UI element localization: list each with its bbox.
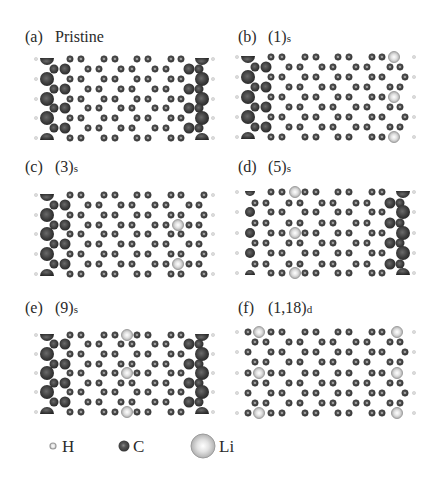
carbon-atom-highlight: [103, 98, 105, 100]
carbon-atom-highlight: [80, 334, 82, 336]
carbon-atom-highlight: [114, 334, 116, 336]
edge-atom-icon: [40, 385, 54, 399]
carbon-atom-highlight: [120, 343, 122, 345]
carbon-atom-highlight: [348, 76, 350, 78]
edge-atom-icon: [60, 378, 71, 389]
carbon-atom-highlight: [389, 86, 391, 88]
carbon-atom-highlight: [87, 263, 89, 265]
carbon-atom-highlight: [366, 66, 368, 68]
carbon-atom-highlight: [304, 211, 306, 213]
edge-atom-icon: [60, 64, 71, 75]
carbon-atom-highlight: [80, 411, 82, 413]
carbon-atom-highlight: [321, 86, 323, 88]
carbon-atom-highlight: [355, 382, 357, 384]
carbon-atom-highlight: [80, 214, 82, 216]
carbon-atom-highlight: [304, 76, 306, 78]
carbon-atom-highlight: [170, 233, 172, 235]
lithium-atom-icon: [173, 220, 184, 231]
carbon-atom-highlight: [114, 214, 116, 216]
carbon-atom-highlight: [188, 204, 190, 206]
carbon-atom-highlight: [154, 363, 156, 365]
lithium-atom-icon: [122, 368, 133, 379]
hydrogen-atom-icon: [211, 272, 214, 275]
carbon-atom-highlight: [270, 252, 272, 254]
carbon-atom-highlight: [299, 242, 301, 244]
carbon-atom-highlight: [265, 202, 267, 204]
edge-atom-icon: [40, 347, 54, 361]
carbon-atom-highlight: [69, 214, 71, 216]
edge-atom-icon: [40, 111, 54, 125]
carbon-atom-highlight: [337, 56, 339, 58]
edge-atom-icon: [241, 70, 255, 84]
carbon-atom-highlight: [114, 353, 116, 355]
carbon-atom-highlight: [270, 392, 272, 394]
lithium-atom-icon: [389, 52, 400, 63]
hydrogen-atom-icon: [235, 55, 238, 58]
carbon-atom-highlight: [270, 211, 272, 213]
carbon-atom-highlight: [120, 382, 122, 384]
carbon-atom-highlight: [103, 334, 105, 336]
hydrogen-atom-icon: [211, 116, 214, 119]
carbon-atom-highlight: [348, 56, 350, 58]
carbon-atom-highlight: [247, 351, 249, 353]
carbon-atom-highlight: [371, 392, 373, 394]
carbon-atom-highlight: [136, 411, 138, 413]
hydrogen-atom-icon: [412, 55, 415, 58]
hydrogen-atom-icon: [34, 57, 37, 60]
carbon-atom-highlight: [332, 202, 334, 204]
carbon-atom-highlight: [281, 392, 283, 394]
lithium-atom-icon: [290, 268, 301, 279]
edge-atom-icon: [396, 205, 410, 219]
edge-atom-icon: [40, 133, 54, 140]
carbon-atom-highlight: [198, 224, 200, 226]
hydrogen-atom-icon: [211, 193, 214, 196]
carbon-atom-highlight: [355, 263, 357, 265]
carbon-atom-highlight: [315, 96, 317, 98]
carbon-atom-highlight: [103, 233, 105, 235]
carbon-atom-highlight: [154, 401, 156, 403]
carbon-atom-highlight: [355, 202, 357, 204]
carbon-atom-highlight: [270, 76, 272, 78]
panel-f: (f) (1,18)d: [235, 299, 415, 419]
carbon-atom-highlight: [348, 136, 350, 138]
hydrogen-atom-icon: [412, 95, 415, 98]
carbon-atom-highlight: [315, 136, 317, 138]
carbon-atom-highlight: [371, 232, 373, 234]
carbon-atom-highlight: [203, 253, 205, 255]
carbon-atom-highlight: [299, 66, 301, 68]
carbon-atom-highlight: [180, 353, 182, 355]
carbon-atom-highlight: [80, 372, 82, 374]
carbon-atom-highlight: [265, 402, 267, 404]
panel-a-label: (a) Pristine: [25, 28, 104, 46]
carbon-atom-highlight: [136, 194, 138, 196]
carbon-atom-highlight: [281, 191, 283, 193]
carbon-atom-highlight: [381, 232, 383, 234]
carbon-atom-highlight: [131, 263, 133, 265]
carbon-atom-highlight: [203, 214, 205, 216]
carbon-atom-highlight: [270, 272, 272, 274]
carbon-atom-highlight: [98, 224, 100, 226]
carbon-atom-highlight: [131, 401, 133, 403]
carbon-atom-highlight: [180, 117, 182, 119]
carbon-atom-highlight: [180, 411, 182, 413]
carbon-atom-highlight: [337, 331, 339, 333]
carbon-atom-highlight: [170, 353, 172, 355]
hydrogen-atom-icon: [211, 352, 214, 355]
carbon-atom-highlight: [371, 96, 373, 98]
lithium-atom-icon: [290, 187, 301, 198]
carbon-atom-highlight: [281, 412, 283, 414]
carbon-atom-highlight: [69, 372, 71, 374]
carbon-atom-highlight: [389, 341, 391, 343]
carbon-atom-highlight: [332, 263, 334, 265]
carbon-atom-highlight: [154, 127, 156, 129]
carbon-atom-highlight: [321, 202, 323, 204]
carbon-atom-highlight: [147, 117, 149, 119]
carbon-atom-icon: [119, 441, 130, 452]
carbon-atom-highlight: [254, 382, 256, 384]
carbon-atom-highlight: [281, 76, 283, 78]
edge-atom-icon: [195, 385, 209, 399]
carbon-atom-highlight: [188, 224, 190, 226]
carbon-atom-highlight: [165, 363, 167, 365]
carbon-atom-highlight: [114, 411, 116, 413]
edge-atom-icon: [50, 65, 59, 74]
